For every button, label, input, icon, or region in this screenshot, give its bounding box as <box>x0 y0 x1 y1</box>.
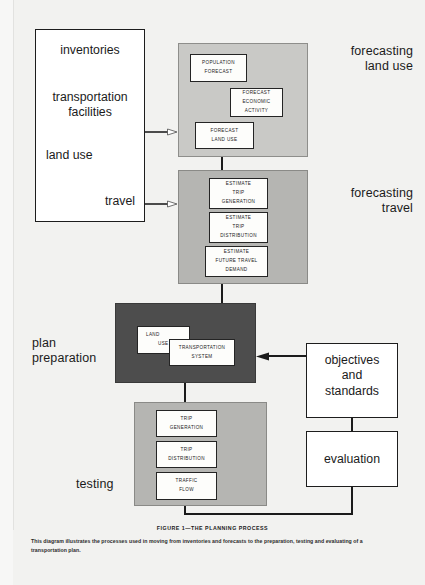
estimate-trip-distribution-box: ESTIMATE TRIP DISTRIBUTION <box>209 212 268 243</box>
forecasting-travel-stage-label: forecasting travel <box>313 186 413 217</box>
travel-label: travel <box>35 194 135 209</box>
arrow-travel-to-forecast-travel <box>145 200 178 208</box>
connector-travel-to-plan-prep <box>221 284 223 303</box>
forecast-economic-activity-box: FORECAST ECONOMIC ACTIVITY <box>230 88 283 117</box>
arrow-inventories-to-forecast-land-use <box>145 128 178 136</box>
forecast-land-use-box: FORECAST LAND USE <box>195 122 254 149</box>
evaluation-label: evaluation <box>306 452 398 467</box>
plan-preparation-stage-label: plan preparation <box>32 336 122 367</box>
estimate-trip-generation-box: ESTIMATE TRIP GENERATION <box>209 178 268 209</box>
arrow-objectives-to-plan-prep <box>256 352 306 361</box>
test-trip-distribution-box: TRIP DISTRIBUTION <box>156 441 217 468</box>
connector-plan-prep-to-testing <box>184 383 186 402</box>
feedback-line-vertical-left <box>184 506 186 515</box>
transportation-facilities-label: transportation facilities <box>35 90 145 121</box>
feedback-line-horizontal <box>184 513 353 515</box>
feedback-line-vertical-right <box>351 487 353 515</box>
test-traffic-flow-box: TRAFFIC FLOW <box>156 472 217 500</box>
estimate-future-travel-demand-box: ESTIMATE FUTURE TRAVEL DEMAND <box>205 246 268 277</box>
inventories-label: inventories <box>35 43 145 58</box>
forecasting-land-use-stage-label: forecasting land use <box>313 44 413 75</box>
figure-caption-body: This diagram illustrates the processes u… <box>31 537 394 554</box>
figure-caption-title: FIGURE 1—THE PLANNING PROCESS <box>0 525 425 531</box>
test-trip-generation-box: TRIP GENERATION <box>156 410 217 437</box>
plan-transportation-system-box: TRANSPORTATION SYSTEM <box>169 339 235 366</box>
land-use-label: land use <box>46 148 146 163</box>
objectives-and-standards-label: objectives and standards <box>306 353 398 399</box>
population-forecast-box: POPULATION FORECAST <box>190 54 247 82</box>
testing-stage-label: testing <box>76 477 146 492</box>
connector-landuse-to-travel <box>221 157 223 170</box>
connector-objectives-to-evaluation <box>351 418 353 431</box>
planning-process-diagram: inventories transportation facilities la… <box>0 0 425 585</box>
